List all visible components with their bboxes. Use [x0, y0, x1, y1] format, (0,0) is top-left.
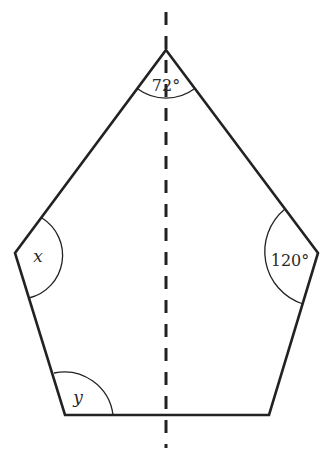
angle-label-x: x [33, 246, 43, 266]
angle-label-right: 120° [271, 251, 310, 270]
angle-label-top: 72° [152, 76, 180, 95]
angle-label-y: y [72, 387, 83, 407]
pentagon-diagram: 72° x 120° y [0, 0, 334, 467]
